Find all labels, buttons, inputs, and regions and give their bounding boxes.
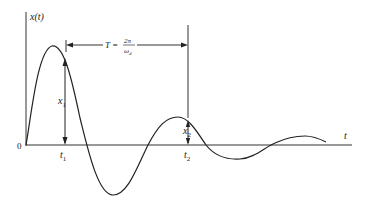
t1-label: t1 (60, 149, 67, 163)
x2-label: x2 (182, 125, 191, 139)
x1-arrowhead-down-icon (63, 137, 68, 145)
period-arrowhead-left-icon (66, 43, 73, 48)
y-axis-label: x(t) (29, 11, 45, 23)
x2-arrowhead-down-icon (186, 138, 190, 145)
period-label: T = (105, 40, 118, 50)
response-curve (26, 46, 326, 195)
damped-vibration-diagram: x(t) t 0 x1 t1 T = 2π ωd (0, 0, 365, 209)
period-arrowhead-right-icon (181, 43, 188, 48)
t2-label: t2 (184, 149, 191, 163)
x1-arrowhead-up-icon (63, 58, 68, 66)
origin-label: 0 (17, 141, 22, 151)
period-denominator: ωd (124, 47, 132, 56)
period-numerator: 2π (124, 37, 132, 45)
t-axis-label: t (344, 130, 347, 141)
